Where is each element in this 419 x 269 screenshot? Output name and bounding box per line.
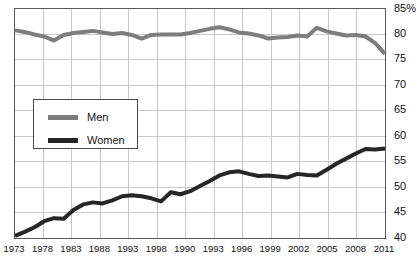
y-axis-tick-label: 80 [394,28,406,39]
x-axis-tick-label: 1978 [28,244,56,254]
legend-item-men: Men [48,111,108,123]
x-axis-tick-label: 1973 [0,244,28,254]
x-axis-tick-label: 1988 [85,244,113,254]
y-axis-tick-label: 40 [394,232,406,243]
legend-label: Women [87,134,125,146]
y-axis-tick-label: 45 [394,206,406,217]
x-axis-tick-label: 1999 [256,244,284,254]
x-axis-tick-label: 2011 [370,244,398,254]
x-axis-tick-label: 1990 [171,244,199,254]
x-axis-tick-label: 1983 [57,244,85,254]
x-axis-tick-label: 1996 [228,244,256,254]
y-axis-tick-label: 65 [394,104,406,115]
y-axis-tick-label: 75 [394,53,406,64]
legend-item-women: Women [48,134,125,146]
y-axis-tick-label: 85% [394,3,416,14]
chart-container: 85%807570656055504540 197319781983198819… [0,0,419,269]
y-axis-tick-label: 50 [394,181,406,192]
x-axis-tick-label: 1993 [114,244,142,254]
legend-swatch-men [48,115,78,120]
x-axis-tick-label: 1998 [142,244,170,254]
legend-swatch-women [48,138,78,143]
chart-legend: MenWomen [33,99,138,149]
x-axis-tick-label: 2008 [342,244,370,254]
y-axis-tick-label: 55 [394,155,406,166]
y-axis-tick-label: 70 [394,79,406,90]
x-axis-tick-label: 1993 [199,244,227,254]
y-axis-tick-label: 60 [394,130,406,141]
legend-label: Men [87,111,108,123]
x-axis-tick-label: 2005 [313,244,341,254]
series-line-men [15,27,385,53]
x-axis-tick-label: 2002 [285,244,313,254]
